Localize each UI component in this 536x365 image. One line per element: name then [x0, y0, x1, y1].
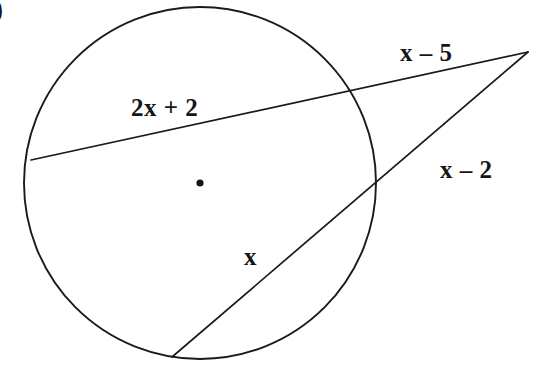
geometry-figure: ) 2x + 2 x – 5 x – 2 x	[0, 0, 536, 365]
external-lower-label: x – 2	[440, 157, 493, 182]
external-upper-label: x – 5	[400, 40, 453, 65]
circle-center-dot	[196, 179, 203, 186]
secant-lower-line	[172, 52, 528, 357]
secant-upper-line	[31, 52, 528, 160]
chord-upper-label: 2x + 2	[131, 95, 198, 120]
chord-lower-label: x	[244, 244, 257, 269]
